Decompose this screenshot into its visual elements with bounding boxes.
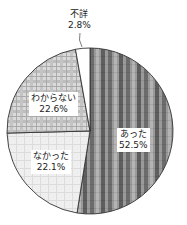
label-atta-pct: 52.5% — [119, 140, 148, 151]
label-nakatta: なかった 22.1% — [31, 150, 71, 174]
label-nakatta-name: なかった — [33, 151, 69, 162]
fusho-leader-line — [79, 33, 82, 47]
label-nakatta-pct: 22.1% — [33, 162, 69, 173]
label-wakaranai: わからない 22.6% — [29, 92, 78, 116]
label-fusho-pct: 2.8% — [68, 20, 91, 31]
label-wakaranai-pct: 22.6% — [31, 104, 76, 115]
label-wakaranai-name: わからない — [31, 93, 76, 104]
label-atta-name: あった — [119, 129, 148, 140]
label-fusho: 不詳 2.8% — [66, 8, 93, 32]
label-fusho-name: 不詳 — [68, 9, 91, 20]
label-atta: あった 52.5% — [117, 128, 150, 152]
